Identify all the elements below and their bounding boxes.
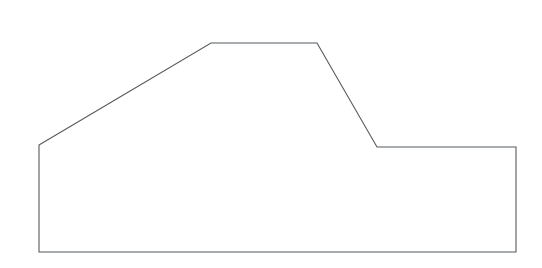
polygon-figure (0, 0, 542, 268)
polygon-outline-shape (39, 43, 516, 252)
drawing-canvas (0, 0, 542, 268)
